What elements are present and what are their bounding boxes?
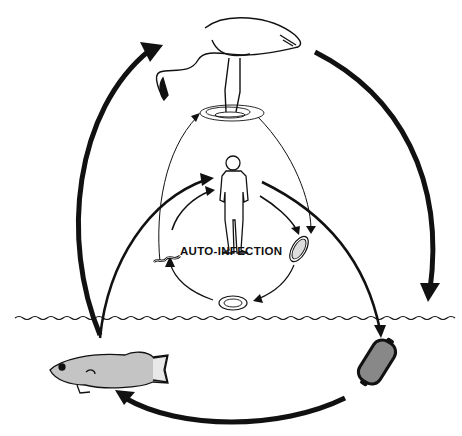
human-host: [220, 156, 248, 253]
egg-lower: [219, 296, 247, 310]
egg-upper: [286, 233, 312, 264]
auto-infection-label: AUTO-INFECTION: [180, 245, 282, 257]
arrow-water-egg-to-fish: [115, 390, 345, 422]
arrow-human-to-water-egg: [262, 182, 386, 338]
egg-in-water: [353, 333, 402, 392]
arrow-human-to-egg: [260, 196, 300, 235]
water-line: [15, 317, 455, 320]
life-cycle-diagram: [0, 0, 462, 436]
arrow-fish-to-bird: [78, 42, 163, 335]
arrow-lower-egg-to-larva: [165, 256, 213, 300]
arrow-bird-to-water-egg: [315, 52, 440, 302]
larva-worm: [154, 256, 180, 262]
fish-host: [50, 352, 168, 393]
arrow-egg-to-lower-egg: [253, 265, 294, 303]
bird-host: [157, 18, 301, 121]
arrow-bird-to-larva: [159, 113, 200, 262]
